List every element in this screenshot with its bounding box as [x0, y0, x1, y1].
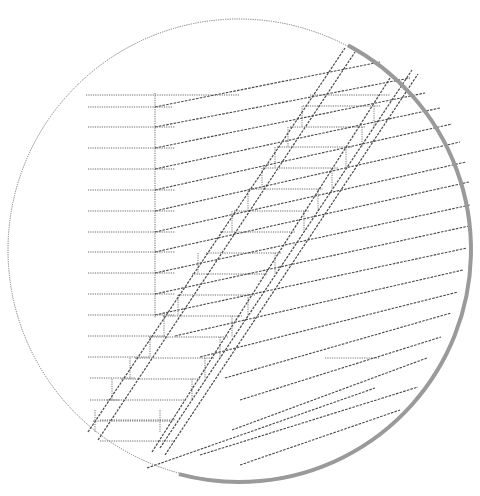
stair-rail: [88, 48, 345, 432]
stair-rail: [160, 70, 412, 448]
outer-circle: [8, 19, 470, 481]
stair-rail: [152, 78, 390, 452]
stair-rail: [98, 52, 355, 440]
slanted-line: [155, 205, 470, 273]
slanted-line: [155, 78, 410, 127]
slanted-line: [200, 292, 458, 357]
stair-circle-diagram: [0, 0, 480, 496]
slanted-line: [155, 248, 467, 315]
stair-rail: [165, 74, 418, 455]
slanted-line: [155, 142, 460, 211]
slanted-line: [155, 124, 452, 190]
slanted-line: [200, 387, 418, 455]
stair-risers-group: [95, 106, 374, 432]
slanted-line: [240, 337, 441, 400]
stair-treads-group: [93, 95, 390, 421]
slanted-line: [155, 182, 469, 252]
slanted-line: [155, 62, 380, 107]
